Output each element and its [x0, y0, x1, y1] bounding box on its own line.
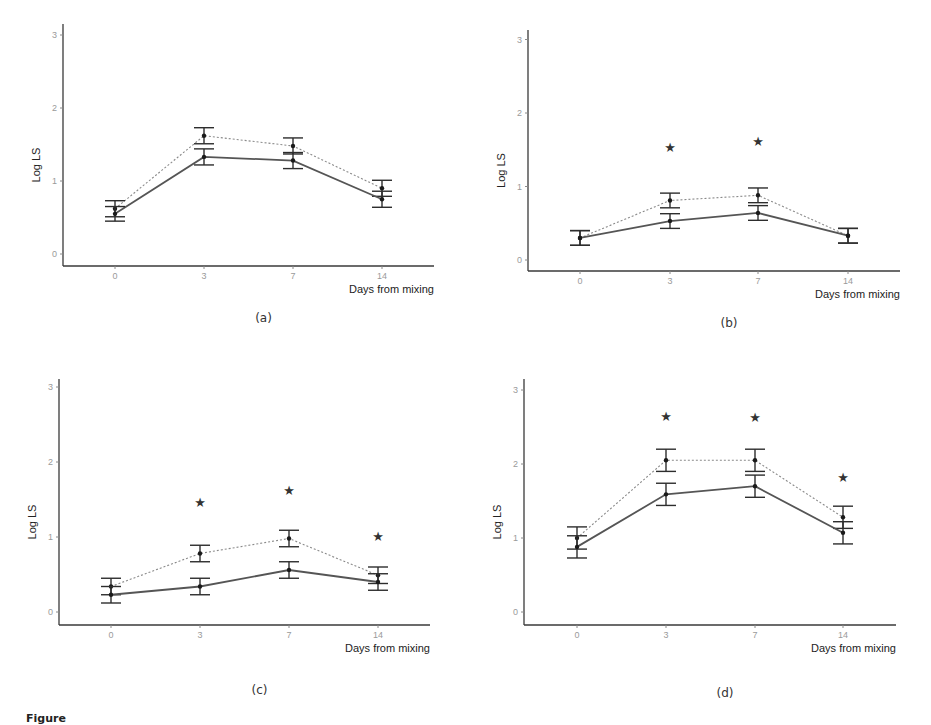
y-tick-label: 2 [48, 457, 53, 467]
data-point [380, 197, 384, 201]
data-point [202, 134, 206, 138]
data-point [291, 158, 295, 162]
y-axis-title: Log LS [491, 505, 503, 540]
data-point [198, 551, 202, 555]
data-point [668, 219, 672, 223]
series-line-dotted [115, 136, 382, 209]
y-tick-label: 3 [517, 35, 522, 45]
x-axis-title: Days from mixing [349, 283, 434, 295]
data-point [376, 580, 380, 584]
data-point [578, 236, 582, 240]
series-line-solid [115, 157, 382, 214]
data-point [841, 531, 845, 535]
data-point [575, 545, 579, 549]
chart-panels: 012303714Days from mixingLog LS(a)012303… [26, 24, 900, 700]
series-line-solid [577, 486, 843, 547]
x-tick-label: 0 [108, 630, 113, 640]
series-line-solid [111, 570, 378, 595]
y-tick-label: 2 [52, 103, 57, 113]
y-axis-title: Log LS [30, 148, 42, 183]
y-tick-label: 0 [517, 255, 522, 265]
series-line-solid [580, 213, 848, 238]
x-tick-label: 0 [577, 276, 582, 286]
y-tick-label: 3 [52, 30, 57, 40]
significance-star-icon: ★ [749, 410, 761, 425]
chart-panel-a: 012303714Days from mixingLog LS(a) [30, 24, 434, 325]
panel-label: (a) [255, 311, 272, 325]
data-point [198, 584, 202, 588]
series-line-dotted [577, 460, 843, 538]
x-tick-label: 3 [201, 271, 206, 281]
significance-star-icon: ★ [283, 483, 295, 498]
data-point [846, 234, 850, 238]
y-tick-label: 2 [517, 108, 522, 118]
x-tick-label: 7 [290, 271, 295, 281]
y-tick-label: 1 [513, 533, 518, 543]
y-tick-label: 1 [48, 532, 53, 542]
y-tick-label: 0 [52, 249, 57, 259]
significance-star-icon: ★ [372, 529, 384, 544]
chart-panel-d: 012303714Days from mixingLog LS★★★(d) [491, 379, 896, 700]
panel-label: (b) [721, 316, 738, 330]
y-tick-label: 0 [513, 607, 518, 617]
data-point [756, 193, 760, 197]
significance-star-icon: ★ [664, 140, 676, 155]
x-tick-label: 7 [286, 630, 291, 640]
panel-label: (d) [717, 686, 734, 700]
y-tick-label: 3 [513, 385, 518, 395]
x-axis-title: Days from mixing [345, 642, 430, 654]
data-point [664, 492, 668, 496]
data-point [664, 458, 668, 462]
data-point [753, 484, 757, 488]
x-tick-label: 14 [843, 276, 853, 286]
x-axis-title: Days from mixing [811, 642, 896, 654]
data-point [113, 212, 117, 216]
series-line-dotted [111, 539, 378, 587]
figure-caption: Figure [26, 712, 66, 725]
x-tick-label: 14 [838, 630, 848, 640]
y-tick-label: 0 [48, 607, 53, 617]
data-point [380, 186, 384, 190]
y-axis-title: Log LS [26, 505, 38, 540]
data-point [841, 515, 845, 519]
x-tick-label: 3 [667, 276, 672, 286]
x-tick-label: 3 [197, 630, 202, 640]
x-tick-label: 14 [373, 630, 383, 640]
y-tick-label: 3 [48, 382, 53, 392]
data-point [202, 155, 206, 159]
data-point [756, 211, 760, 215]
x-tick-label: 0 [112, 271, 117, 281]
x-tick-label: 7 [755, 276, 760, 286]
data-point [668, 198, 672, 202]
data-point [287, 568, 291, 572]
data-point [109, 593, 113, 597]
data-point [287, 536, 291, 540]
x-tick-label: 0 [574, 630, 579, 640]
panel-label: (c) [252, 683, 268, 697]
x-tick-label: 14 [377, 271, 387, 281]
significance-star-icon: ★ [752, 134, 764, 149]
x-tick-label: 7 [752, 630, 757, 640]
x-axis-title: Days from mixing [815, 288, 900, 300]
data-point [291, 144, 295, 148]
figure-canvas: 012303714Days from mixingLog LS(a)012303… [0, 0, 931, 725]
significance-star-icon: ★ [660, 409, 672, 424]
chart-panel-b: 012303714Days from mixingLog LS★★(b) [495, 30, 900, 330]
y-tick-label: 1 [52, 176, 57, 186]
chart-panel-c: 012303714Days from mixingLog LS★★★(c) [26, 379, 430, 697]
significance-star-icon: ★ [837, 470, 849, 485]
y-tick-label: 1 [517, 182, 522, 192]
x-tick-label: 3 [663, 630, 668, 640]
y-tick-label: 2 [513, 459, 518, 469]
y-axis-title: Log LS [495, 153, 507, 188]
significance-star-icon: ★ [194, 495, 206, 510]
data-point [753, 458, 757, 462]
